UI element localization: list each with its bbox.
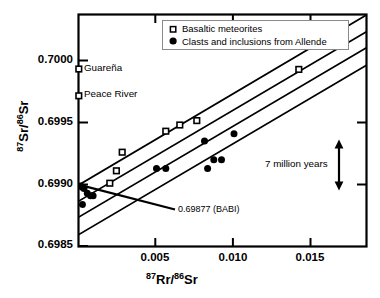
legend-label-allende-clasts: Clasts and inclusions from Allende	[182, 36, 327, 47]
data-point-circle	[153, 165, 160, 172]
y-axis-title-main-sr2: Sr	[16, 101, 31, 115]
marker-guarena	[76, 66, 82, 72]
x-axis-title: 87Rr/86Sr	[146, 271, 198, 287]
annotation-seven-million-years: 7 million years	[265, 158, 328, 169]
data-point-circle	[79, 201, 86, 208]
x-axis-title-main-rr: Rr/	[156, 272, 174, 287]
x-axis-title-sup-87: 87	[146, 271, 156, 281]
annotation-babi: 0.69877 (BABI)	[178, 204, 240, 214]
data-point-square	[163, 128, 169, 134]
data-point-square	[177, 122, 183, 128]
legend-label-basaltic-meteorites: Basaltic meteorites	[182, 23, 262, 34]
y-axis-title-sup-86: 86	[15, 114, 25, 124]
annotation-guarena: Guareña	[84, 62, 122, 73]
data-point-circle	[162, 165, 169, 172]
data-point-circle	[210, 156, 217, 163]
data-point-circle	[231, 130, 238, 137]
y-tick-label-0: 0.7000	[17, 53, 73, 65]
x-tick-label-0: 0.005	[125, 251, 185, 263]
data-point-circle	[218, 156, 225, 163]
y-tick-label-2: 0.6990	[17, 177, 73, 189]
data-point-circle	[204, 165, 211, 172]
data-point-square	[296, 67, 302, 73]
x-tick-label-1: 0.010	[203, 251, 263, 263]
x-axis-title-sup-86: 86	[174, 271, 184, 281]
legend-marker-filled-circle	[170, 37, 177, 44]
x-tick-label-2: 0.015	[280, 251, 340, 263]
data-point-square	[119, 149, 125, 155]
x-axis-title-main-sr: Sr	[184, 272, 198, 287]
data-point-square	[114, 168, 120, 174]
data-point-circle	[90, 192, 97, 199]
data-point-square	[194, 118, 200, 124]
y-axis-title-sup-87: 87	[15, 142, 25, 152]
y-axis-title-main-sr1: Sr/	[16, 124, 31, 141]
legend-marker-open-square	[170, 27, 175, 32]
marker-peace-river	[76, 93, 82, 99]
y-axis-title: 87Sr/86Sr	[15, 76, 31, 176]
isochron-chart-figure: Basaltic meteorites Clasts and inclusion…	[0, 0, 380, 298]
data-point-square	[107, 180, 113, 186]
annotation-peace-river: Peace River	[84, 88, 137, 99]
y-tick-label-3: 0.6985	[17, 238, 73, 250]
data-point-circle	[201, 138, 208, 145]
